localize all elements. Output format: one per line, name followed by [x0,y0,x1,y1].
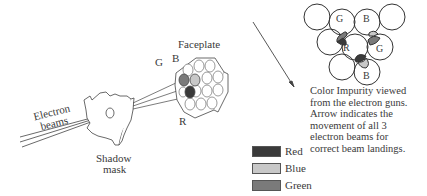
blue-swatch [252,163,281,174]
impurity-circle-cluster [304,4,405,85]
caption-line: Arrow indicates the [310,108,407,120]
caption: Color Impurity viewed from the electron … [310,85,407,154]
cluster-b2-label: B [363,70,370,82]
caption-line: correct beam landings. [310,143,407,155]
shadow-mask-label-line2: mask [103,163,126,175]
legend-label: Blue [285,162,306,174]
gun-b-label: B [172,52,179,64]
faceplate-label: Faceplate [178,38,220,50]
shadow-mask [84,92,134,145]
movement-arrow [253,22,294,87]
legend-item-green: Green [252,178,312,192]
faceplate [175,58,228,118]
red-swatch [252,146,281,157]
legend-label: Red [285,145,303,157]
caption-line: Color Impurity viewed [310,85,407,97]
caption-line: from the electron guns. [310,97,407,109]
legend-item-blue: Blue [252,161,312,175]
cluster-b1-label: B [363,13,370,25]
cluster-r-label: R [343,42,350,54]
legend: Red Blue Green [252,144,312,195]
caption-line: movement of all 3 [310,120,407,132]
gun-r-label: R [179,115,186,127]
gun-g-label: G [155,56,163,68]
legend-item-red: Red [252,144,312,158]
green-swatch [252,180,281,191]
legend-label: Green [285,179,312,191]
caption-line: electron beams for [310,131,407,143]
cluster-g1-label: G [336,13,343,25]
cluster-g2-label: G [376,43,383,55]
